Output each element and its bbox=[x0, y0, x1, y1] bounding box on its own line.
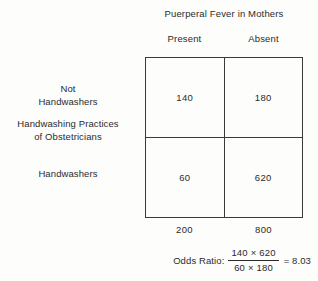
column-header-present: Present bbox=[145, 33, 224, 44]
row-group-label-line1: Handwashing Practices bbox=[0, 117, 136, 130]
row-group-label-line2: of Obstetricians bbox=[0, 130, 136, 143]
contingency-table-figure: Puerperal Fever in Mothers Present Absen… bbox=[0, 0, 318, 281]
odds-ratio-denominator: 60 × 180 bbox=[231, 262, 276, 274]
odds-ratio-formula: Odds Ratio: 140 × 620 60 × 180 = 8.03 bbox=[0, 247, 311, 274]
column-total-absent: 800 bbox=[224, 224, 303, 235]
column-totals-row: 200 800 bbox=[145, 224, 303, 235]
row-label-not-handwashers-line1: Not bbox=[0, 82, 136, 95]
table-cell-handwashers-present: 60 bbox=[146, 138, 225, 217]
table-row: 140 180 bbox=[146, 58, 302, 138]
column-total-present: 200 bbox=[145, 224, 224, 235]
odds-ratio-result: = 8.03 bbox=[284, 255, 311, 266]
odds-ratio-fraction: 140 × 620 60 × 180 bbox=[228, 247, 278, 274]
row-group-label: Handwashing Practices of Obstetricians bbox=[0, 117, 136, 143]
row-label-handwashers-line1: Handwashers bbox=[0, 167, 136, 180]
column-header-row: Present Absent bbox=[145, 33, 303, 44]
table-cell-not-handwashers-present: 140 bbox=[146, 58, 225, 137]
row-label-not-handwashers: Not Handwashers bbox=[0, 82, 136, 108]
odds-ratio-label: Odds Ratio: bbox=[173, 255, 224, 266]
column-header-absent: Absent bbox=[224, 33, 303, 44]
column-group-title: Puerperal Fever in Mothers bbox=[145, 8, 303, 19]
row-label-handwashers: Handwashers bbox=[0, 167, 136, 180]
row-label-not-handwashers-line2: Handwashers bbox=[0, 95, 136, 108]
fraction-bar bbox=[228, 260, 278, 261]
table-cell-handwashers-absent: 620 bbox=[225, 138, 303, 217]
odds-ratio-numerator: 140 × 620 bbox=[228, 247, 278, 259]
table-row: 60 620 bbox=[146, 138, 302, 217]
table-grid: 140 180 60 620 bbox=[145, 57, 303, 218]
table-cell-not-handwashers-absent: 180 bbox=[225, 58, 303, 137]
